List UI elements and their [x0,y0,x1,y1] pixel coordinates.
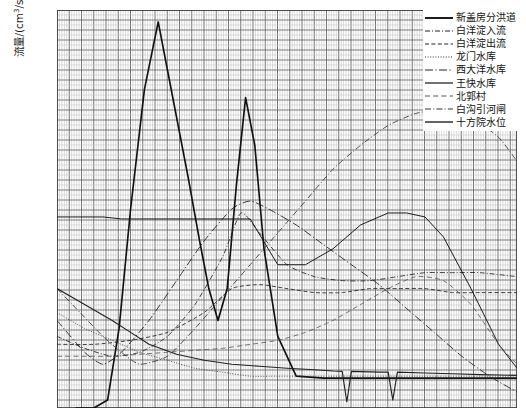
series-line [57,289,517,402]
legend-item-label: 西大洋水库 [456,64,506,75]
chart-legend: 新盖房分洪道白洋淀入流白洋淀出流龙门水库西大洋水库王快水库北郭村白沟引河闸十方院… [423,9,523,131]
legend-item-label: 十方院水位 [456,117,506,128]
chart-root: 流量/(cm3/s) 新盖房分洪道白洋淀入流白洋淀出流龙门水库西大洋水库王快水库… [0,0,526,420]
y-axis-label-main: 流量/(cm [13,13,25,57]
legend-line-swatch-icon [424,12,454,24]
legend-item-label: 王快水库 [456,78,496,89]
legend-line-swatch-icon [424,25,454,37]
legend-item-label: 北郭村 [456,91,486,102]
legend-item[interactable]: 白洋淀入流 [424,24,522,37]
x-axis-tick-labels [57,409,517,420]
legend-item[interactable]: 新盖房分洪道 [424,11,522,24]
legend-line-swatch-icon [424,103,454,115]
series-line [57,276,517,364]
series-line [57,109,517,364]
legend-line-swatch-icon [424,51,454,63]
legend-item[interactable]: 北郭村 [424,90,522,103]
series-line [57,285,517,345]
y-axis-label-exponent: 3 [13,9,21,13]
legend-line-swatch-icon [424,90,454,102]
legend-item-label: 白洋淀入流 [456,25,506,36]
legend-item[interactable]: 王快水库 [424,76,522,89]
legend-item-label: 白沟引河闸 [456,104,506,115]
legend-item[interactable]: 白洋淀出流 [424,37,522,50]
series-line [57,213,517,357]
legend-line-swatch-icon [424,77,454,89]
legend-item[interactable]: 十方院水位 [424,116,522,129]
y-axis-label-tail: /s) [13,0,25,9]
legend-line-swatch-icon [424,64,454,76]
legend-line-swatch-icon [424,38,454,50]
legend-item[interactable]: 白沟引河闸 [424,103,522,116]
series-line [57,201,517,392]
y-axis-label: 流量/(cm3/s) [11,0,27,81]
legend-item-label: 龙门水库 [456,51,496,62]
legend-line-swatch-icon [424,116,454,128]
legend-item-label: 白洋淀出流 [456,38,506,49]
legend-item[interactable]: 龙门水库 [424,50,522,63]
legend-item[interactable]: 西大洋水库 [424,63,522,76]
legend-item-label: 新盖房分洪道 [456,12,516,23]
